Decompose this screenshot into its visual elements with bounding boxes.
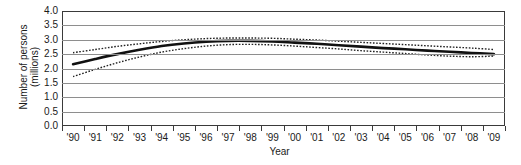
x-axis-tick <box>284 126 285 131</box>
x-axis-tick <box>261 126 262 131</box>
x-axis-tick <box>416 126 417 131</box>
x-axis-tick <box>483 126 484 131</box>
gridline <box>62 83 505 84</box>
plot-area <box>62 11 505 126</box>
x-axis-tick-label: '01 <box>310 132 323 143</box>
x-axis-tick-label: '91 <box>89 132 102 143</box>
gridline <box>62 97 505 98</box>
y-axis-title: Number of persons (millions) <box>0 0 30 133</box>
x-axis-tick <box>84 126 85 131</box>
x-axis-tick <box>239 126 240 131</box>
x-axis-tick-label: '99 <box>266 132 279 143</box>
gridline <box>62 54 505 55</box>
x-axis-tick <box>439 126 440 131</box>
x-axis-tick-label: '03 <box>354 132 367 143</box>
gridline <box>62 40 505 41</box>
x-axis-tick-label: '04 <box>377 132 390 143</box>
y-axis-tick-label: 4.0 <box>28 6 58 16</box>
x-axis-tick <box>106 126 107 131</box>
x-axis-tick <box>128 126 129 131</box>
y-axis-tick-label: 3.5 <box>28 20 58 30</box>
x-axis-tick-label: '06 <box>421 132 434 143</box>
x-axis-tick <box>217 126 218 131</box>
x-axis-title: Year <box>0 146 521 157</box>
x-axis-tick-label: '97 <box>222 132 235 143</box>
x-axis-tick <box>173 126 174 131</box>
y-axis-tick-label: 3.0 <box>28 35 58 45</box>
x-axis-tick <box>195 126 196 131</box>
x-axis-tick <box>328 126 329 131</box>
y-axis-tick-label: 1.5 <box>28 78 58 88</box>
x-axis-tick-label: '07 <box>443 132 456 143</box>
x-axis: '90'91'92'93'94'95'96'97'98'99'00'01'02'… <box>62 126 505 148</box>
x-axis-tick-label: '09 <box>487 132 500 143</box>
chart-figure: Number of persons (millions) 4.03.53.02.… <box>0 0 521 165</box>
y-axis-tick-label: 0.5 <box>28 107 58 117</box>
y-axis-tick-label: 0.0 <box>28 121 58 131</box>
x-axis-tick <box>505 126 506 131</box>
y-axis-tick-labels: 4.03.53.02.52.01.51.00.50.0 <box>28 0 58 133</box>
x-axis-tick-label: '00 <box>288 132 301 143</box>
gridline <box>62 112 505 113</box>
y-axis-tick-label: 2.5 <box>28 49 58 59</box>
x-axis-tick-label: '92 <box>111 132 124 143</box>
y-axis-tick-label: 1.0 <box>28 92 58 102</box>
x-axis-tick <box>350 126 351 131</box>
x-axis-tick-label: '96 <box>199 132 212 143</box>
x-axis-tick-label: '90 <box>67 132 80 143</box>
x-axis-tick-label: '98 <box>244 132 257 143</box>
x-axis-tick-label: '02 <box>332 132 345 143</box>
x-axis-tick-label: '95 <box>177 132 190 143</box>
estimate-line <box>73 41 494 64</box>
x-axis-tick-label: '05 <box>399 132 412 143</box>
x-axis-tick-label: '08 <box>465 132 478 143</box>
x-axis-tick-label: '93 <box>133 132 146 143</box>
x-axis-tick <box>372 126 373 131</box>
x-axis-tick <box>394 126 395 131</box>
x-axis-tick <box>306 126 307 131</box>
gridline <box>62 25 505 26</box>
x-axis-tick <box>62 126 63 131</box>
x-axis-tick <box>151 126 152 131</box>
gridline <box>62 69 505 70</box>
y-axis-tick-label: 2.0 <box>28 64 58 74</box>
x-axis-title-label: Year <box>269 146 289 157</box>
x-axis-tick <box>461 126 462 131</box>
x-axis-tick-label: '94 <box>155 132 168 143</box>
